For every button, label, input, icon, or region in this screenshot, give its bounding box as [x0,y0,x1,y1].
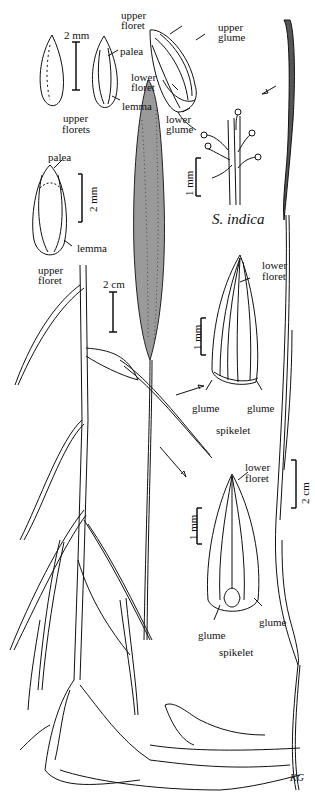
label-lower-glume-l2: glume [166,124,194,135]
scale-label-2cm-habit: 2 cm [103,279,125,290]
scale-bar-1mm-detail [196,158,201,196]
scale-bar-2cm-habit [109,292,117,332]
culm-right-drawing [275,20,300,790]
label-upper-glume-l2: glume [218,32,246,43]
upper-floret-back-drawing [40,35,63,106]
scale-label-1mm-side: 1 mm [192,325,203,350]
roots-drawing [20,620,300,790]
scale-label-2mm-top: 2 mm [64,30,89,41]
caption-spikelet-side: spikelet [216,425,250,436]
upper-floret-front-drawing [92,36,120,108]
panicle-drawing [134,80,165,640]
label-lemma-top: lemma [122,101,152,112]
label-lower-floret-side-l2: floret [262,271,286,282]
caption-upper-florets-l2: florets [62,124,90,135]
spikelet-side-drawing [176,255,262,395]
label-lower-floret-l2: floret [131,82,155,93]
botanical-illustration [0,0,315,801]
scale-label-1mm-detail: 1 mm [184,171,195,196]
label-glume-front-left: glume [198,630,226,641]
scale-bar-2cm-right [291,460,296,508]
label-glume-side-right: glume [247,403,275,414]
upper-floret-single-drawing [33,160,72,255]
scale-bar-2mm-top [72,42,80,90]
caption-spikelet-front: spikelet [219,647,253,658]
scale-label-2mm-single: 2 mm [88,187,99,212]
species-name: S. indica [212,214,265,225]
caption-upper-floret-l2: floret [38,275,62,286]
label-palea-single: palea [48,152,71,163]
label-glume-front-right: glume [259,617,287,628]
label-upper-floret-l2: floret [121,20,145,31]
label-glume-side-left: glume [192,403,220,414]
scale-label-2cm-right: 2 cm [300,482,311,504]
artist-signature: KG [290,772,304,783]
scale-label-1mm-front: 1 mm [188,515,199,540]
label-lower-floret-front-l2: floret [245,473,269,484]
label-palea-top: palea [120,46,143,57]
inflorescence-axis-detail [201,86,276,205]
scale-bar-2mm-single [78,174,82,222]
label-lemma-single: lemma [77,243,107,254]
